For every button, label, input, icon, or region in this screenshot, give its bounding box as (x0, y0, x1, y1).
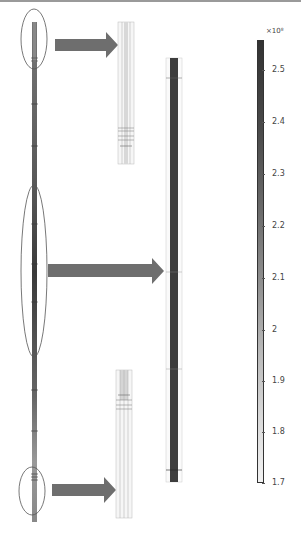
colorbar-tick-label: 1.8 (272, 427, 285, 436)
colorbar-tick-label: 1.7 (272, 478, 285, 487)
colorbar-tick-mark (262, 330, 265, 331)
colorbar-tick-label: 2.2 (272, 221, 285, 230)
colorbar-tick-mark (262, 483, 265, 484)
top-arrow-icon (55, 32, 118, 58)
colorbar-tick-label: 1.9 (272, 376, 285, 385)
colorbar-tick-mark (262, 432, 265, 433)
colorbar (257, 40, 264, 483)
colorbar-tick-mark (262, 226, 265, 227)
top-end-detail (118, 22, 134, 164)
colorbar-tick-label: 2.5 (272, 65, 285, 74)
middle-section-detail (166, 58, 182, 482)
colorbar-tick-mark (262, 381, 265, 382)
colorbar-tick-mark (262, 122, 265, 123)
bottom-arrow-icon (52, 477, 116, 503)
main-column (31, 22, 38, 522)
colorbar-tick-mark (262, 174, 265, 175)
colorbar-tick-label: 2.4 (272, 117, 285, 126)
bottom-end-detail (116, 370, 132, 518)
colorbar-tick-label: 2.3 (272, 169, 285, 178)
colorbar-multiplier: ×10⁸ (266, 27, 284, 35)
colorbar-tick-label: 2.1 (272, 273, 285, 282)
model-diagram (0, 0, 250, 533)
middle-arrow-icon (48, 258, 164, 284)
colorbar-tick-mark (262, 70, 265, 71)
colorbar-tick-mark (262, 278, 265, 279)
colorbar-tick-label: 2 (272, 325, 277, 334)
